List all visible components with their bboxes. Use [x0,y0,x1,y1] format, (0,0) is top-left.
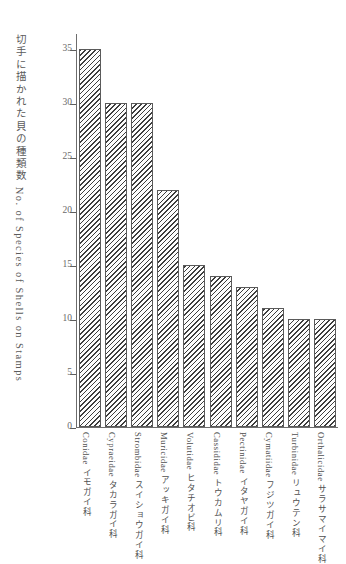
x-axis-label-japanese: トウカムリ科 [212,478,222,537]
x-axis-label: Turbinidae リュウテン科 [290,432,299,538]
x-axis-label: Orthalicidae サラサマイマイ科 [316,432,325,564]
x-axis-label-japanese: イモガイ科 [81,468,91,518]
x-axis-label: Cassididae トウカムリ科 [212,432,221,537]
bar [131,103,153,427]
bar [210,276,232,427]
y-tick-label: 15 [63,259,73,269]
y-axis-title: 切手に描かれた貝の種類数 No. of Species of Shells on… [6,34,32,334]
x-axis-label-japanese: タカラガイ科 [107,480,117,539]
x-axis-label: Conidae イモガイ科 [81,432,90,517]
y-tick-label: 20 [63,205,73,215]
x-axis-label: Cymatiidae フジツガイ科 [264,432,273,540]
bar [314,319,336,427]
x-axis-label: Strombidae スイショウガイ科 [133,432,142,560]
x-axis-label-latin: Turbinidae [290,432,300,475]
bar [183,265,205,427]
plot-area: 05101520253035 [76,34,338,428]
y-tick-label: 25 [63,151,73,161]
x-axis-label-japanese: スイショウガイ科 [133,480,143,559]
x-axis-line [76,427,338,428]
y-axis-title-text: 切手に描かれた貝の種類数 No. of Species of Shells on… [14,34,25,382]
y-tick-label: 30 [63,97,73,107]
x-axis-label-japanese: フジツガイ科 [264,480,274,539]
x-axis-label: Pectinidae イタヤガイ科 [238,432,247,536]
x-axis-label-latin: Cassididae [212,432,222,475]
x-axis-label: Cypraeidae タカラガイ科 [107,432,116,539]
bar [157,190,179,427]
bar-series [77,34,338,427]
x-axis-labels: Conidae イモガイ科Cypraeidae タカラガイ科Strombidae… [77,432,338,552]
x-axis-label-japanese: ヒタチオビ科 [185,473,195,532]
y-tick-label: 5 [67,367,72,377]
y-tick-label: 10 [63,313,73,323]
y-tick-label: 0 [67,421,72,431]
x-axis-label-latin: Strombidae [133,432,143,478]
x-axis-label-latin: Orthalicidae [316,432,326,482]
x-axis-label-latin: Muricidae [159,432,169,473]
bar [262,308,284,427]
y-tick-label: 35 [63,43,73,53]
x-axis-label-latin: Cypraeidae [107,432,117,477]
bar [105,103,127,427]
bar [288,319,310,427]
x-axis-label-japanese: イタヤガイ科 [238,477,248,536]
x-axis-label: Volutidae ヒタチオビ科 [185,432,194,532]
bar [79,49,101,427]
x-axis-label: Muricidae アッキガイ科 [159,432,168,535]
bar [236,287,258,427]
x-axis-label-latin: Conidae [81,432,91,465]
x-axis-label-latin: Cymatiidae [264,432,274,478]
x-axis-label-latin: Volutidae [185,432,195,470]
x-axis-label-japanese: サラサマイマイ科 [316,484,326,563]
x-axis-label-latin: Pectinidae [238,432,248,474]
x-axis-label-japanese: アッキガイ科 [159,475,169,534]
x-axis-label-japanese: リュウテン科 [290,478,300,537]
